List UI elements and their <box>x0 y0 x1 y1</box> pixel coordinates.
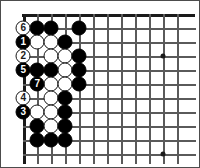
stone-white[interactable] <box>58 49 73 64</box>
stone-black[interactable] <box>72 63 87 78</box>
stone-move-number: 1 <box>20 37 25 47</box>
stone-black-move-7[interactable]: 7 <box>30 77 45 92</box>
stone-black[interactable] <box>44 21 59 36</box>
stone-black[interactable] <box>58 91 73 106</box>
stone-white[interactable] <box>58 77 73 92</box>
stone-black[interactable] <box>72 21 87 36</box>
stone-move-number: 7 <box>34 79 39 89</box>
stone-black-move-1[interactable]: 1 <box>16 35 31 50</box>
stone-white[interactable] <box>30 105 45 120</box>
stone-black-move-3[interactable]: 3 <box>16 105 31 120</box>
stone-white[interactable] <box>30 35 45 50</box>
stone-white[interactable] <box>44 119 59 134</box>
stone-white-move-2[interactable]: 2 <box>16 49 31 64</box>
star-point-upper-right <box>161 54 166 59</box>
stone-move-number: 5 <box>20 65 25 75</box>
stone-black[interactable] <box>72 77 87 92</box>
stone-black[interactable] <box>58 105 73 120</box>
stone-white[interactable] <box>44 49 59 64</box>
stone-black[interactable] <box>58 133 73 148</box>
stone-black[interactable] <box>72 49 87 64</box>
grid-line-horizontal-10 <box>23 154 196 156</box>
go-board[interactable]: 6125743 <box>0 0 200 168</box>
stone-black[interactable] <box>30 21 45 36</box>
stone-white-move-4[interactable]: 4 <box>16 91 31 106</box>
stone-move-number: 2 <box>20 51 25 61</box>
stone-black-move-5[interactable]: 5 <box>16 63 31 78</box>
stone-black[interactable] <box>44 133 59 148</box>
go-diagram-screenshot: 6125743 <box>0 0 200 168</box>
stone-black[interactable] <box>58 35 73 50</box>
stone-white-move-6[interactable]: 6 <box>16 21 31 36</box>
stone-white[interactable] <box>44 35 59 50</box>
stone-black[interactable] <box>30 63 45 78</box>
stone-black[interactable] <box>30 119 45 134</box>
stone-white[interactable] <box>58 63 73 78</box>
stone-move-number: 4 <box>20 93 25 103</box>
stone-move-number: 3 <box>20 107 25 117</box>
stone-move-number: 6 <box>20 23 25 33</box>
stone-black[interactable] <box>30 133 45 148</box>
star-point-lower-right <box>161 152 166 157</box>
stone-white[interactable] <box>44 77 59 92</box>
stone-white[interactable] <box>44 105 59 120</box>
stone-black[interactable] <box>44 63 59 78</box>
stone-black[interactable] <box>58 119 73 134</box>
stone-white[interactable] <box>44 91 59 106</box>
